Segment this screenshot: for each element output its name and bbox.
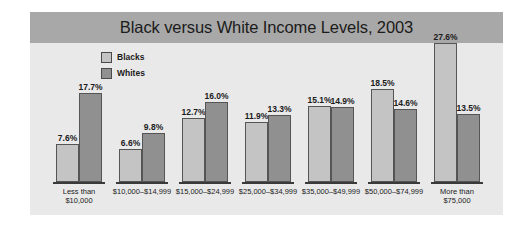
- group-bars: 27.6% 13.5%: [434, 43, 480, 182]
- group-label-line1: $10,000–$14,999: [113, 187, 171, 196]
- bar-value-whites: 16.0%: [204, 91, 228, 101]
- bar-blacks: 18.5%: [371, 89, 394, 182]
- bar-value-whites: 14.9%: [330, 96, 354, 106]
- chart-title: Black versus White Income Levels, 2003: [120, 18, 413, 37]
- group-label: $15,000–$24,999: [176, 187, 234, 196]
- bar-whites: 13.5%: [457, 114, 480, 182]
- group-label: Less than $10,000: [63, 187, 96, 205]
- bar-value-blacks: 11.9%: [245, 111, 269, 121]
- chart-panel: Black versus White Income Levels, 2003 B…: [30, 12, 503, 215]
- bar-value-blacks: 7.6%: [58, 133, 77, 143]
- bar-whites: 9.8%: [142, 133, 165, 182]
- group-label-line1: $35,000–$49,999: [302, 187, 360, 196]
- group-baseline: [116, 182, 168, 184]
- bar-whites: 13.3%: [268, 115, 291, 182]
- bar-group: 27.6% 13.5% More than $75,000: [434, 43, 480, 182]
- group-bars: 6.6% 9.8%: [119, 43, 165, 182]
- bar-value-whites: 13.3%: [267, 104, 291, 114]
- group-baseline: [368, 182, 420, 184]
- bar-whites: 16.0%: [205, 102, 228, 182]
- bar-blacks: 12.7%: [182, 118, 205, 182]
- plot-area: 7.6% 17.7% Less than $10,000 6.6%: [30, 43, 503, 215]
- bar-value-blacks: 15.1%: [307, 95, 331, 105]
- bar-whites: 14.6%: [394, 109, 417, 182]
- chart-title-band: Black versus White Income Levels, 2003: [30, 12, 503, 43]
- bar-whites: 14.9%: [331, 107, 354, 182]
- bar-value-blacks: 27.6%: [433, 32, 457, 42]
- group-label-line1: $15,000–$24,999: [176, 187, 234, 196]
- group-bars: 11.9% 13.3%: [245, 43, 291, 182]
- bar-value-blacks: 18.5%: [370, 78, 394, 88]
- bar-blacks: 11.9%: [245, 122, 268, 182]
- group-label-line1: $25,000–$34,999: [239, 187, 297, 196]
- bar-blacks: 6.6%: [119, 149, 142, 182]
- group-label: $50,000–$74,999: [365, 187, 423, 196]
- group-label-line2: $75,000: [440, 196, 474, 205]
- bar-value-whites: 17.7%: [78, 82, 102, 92]
- bar-value-whites: 14.6%: [393, 98, 417, 108]
- group-label-line1: More than: [440, 187, 474, 196]
- group-baseline: [305, 182, 357, 184]
- group-label-line1: Less than: [63, 187, 96, 196]
- bar-blacks: 7.6%: [56, 144, 79, 182]
- bar-group: 6.6% 9.8% $10,000–$14,999: [119, 43, 165, 182]
- group-bars: 7.6% 17.7%: [56, 43, 102, 182]
- bar-blacks: 27.6%: [434, 43, 457, 182]
- bar-blacks: 15.1%: [308, 106, 331, 182]
- group-label-line2: $10,000: [63, 196, 96, 205]
- bar-group: 7.6% 17.7% Less than $10,000: [56, 43, 102, 182]
- group-bars: 12.7% 16.0%: [182, 43, 228, 182]
- chart-figure: Black versus White Income Levels, 2003 B…: [0, 0, 530, 227]
- group-baseline: [242, 182, 294, 184]
- group-bars: 18.5% 14.6%: [371, 43, 417, 182]
- group-label: $35,000–$49,999: [302, 187, 360, 196]
- group-label-line1: $50,000–$74,999: [365, 187, 423, 196]
- group-baseline: [179, 182, 231, 184]
- group-label: $25,000–$34,999: [239, 187, 297, 196]
- group-label: More than $75,000: [440, 187, 474, 205]
- bar-group: 11.9% 13.3% $25,000–$34,999: [245, 43, 291, 182]
- bar-group: 15.1% 14.9% $35,000–$49,999: [308, 43, 354, 182]
- group-bars: 15.1% 14.9%: [308, 43, 354, 182]
- bar-value-whites: 13.5%: [456, 103, 480, 113]
- bar-group: 18.5% 14.6% $50,000–$74,999: [371, 43, 417, 182]
- bar-whites: 17.7%: [79, 93, 102, 182]
- bar-value-blacks: 6.6%: [121, 138, 140, 148]
- group-baseline: [431, 182, 483, 184]
- group-baseline: [53, 182, 105, 184]
- group-label: $10,000–$14,999: [113, 187, 171, 196]
- bar-value-blacks: 12.7%: [181, 107, 205, 117]
- bar-value-whites: 9.8%: [144, 122, 163, 132]
- bar-group: 12.7% 16.0% $15,000–$24,999: [182, 43, 228, 182]
